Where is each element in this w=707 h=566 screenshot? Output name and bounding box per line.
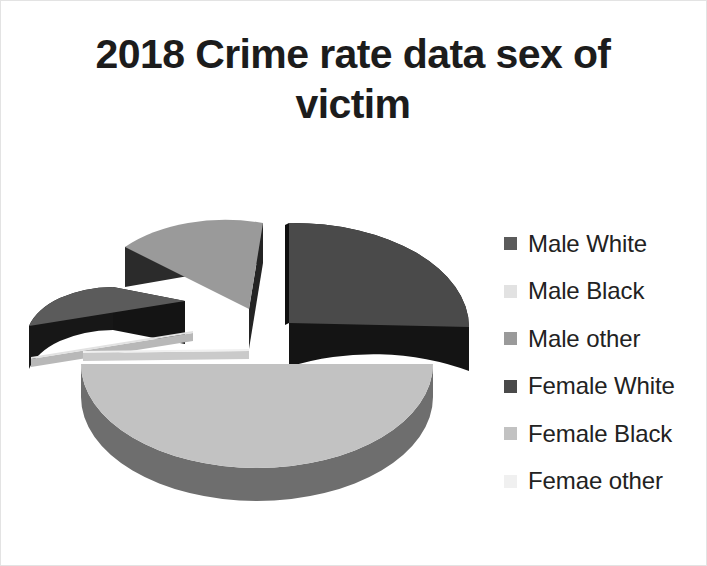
legend-swatch-icon (504, 237, 517, 250)
page-title: 2018 Crime rate data sex of victim (53, 29, 653, 129)
pie-slice-female-black[interactable] (81, 364, 433, 501)
legend-swatch-icon (504, 427, 517, 440)
legend-label: Female White (528, 372, 675, 400)
legend-swatch-icon (504, 332, 517, 345)
chart-legend: Male White Male Black Male other Female … (504, 220, 700, 505)
pie-chart-plot-area (17, 201, 497, 521)
legend-label: Male other (528, 325, 640, 353)
legend-item-femae-other[interactable]: Femae other (504, 458, 700, 506)
legend-label: Male White (528, 230, 647, 258)
legend-swatch-icon (504, 285, 517, 298)
legend-item-male-other[interactable]: Male other (504, 315, 700, 363)
legend-label: Female Black (528, 420, 672, 448)
legend-item-female-black[interactable]: Female Black (504, 410, 700, 458)
legend-item-female-white[interactable]: Female White (504, 363, 700, 411)
pie-slice-femae-other[interactable] (83, 349, 249, 361)
legend-item-male-white[interactable]: Male White (504, 220, 700, 268)
legend-item-male-black[interactable]: Male Black (504, 268, 700, 316)
pie-chart-graphic (17, 201, 497, 521)
pie-slice-female-white-edge (285, 223, 289, 325)
slide-canvas: 2018 Crime rate data sex of victim (0, 0, 707, 566)
legend-swatch-icon (504, 380, 517, 393)
legend-swatch-icon (504, 475, 517, 488)
legend-label: Femae other (528, 467, 663, 495)
pie-slice-female-white[interactable] (285, 223, 469, 371)
legend-label: Male Black (528, 277, 644, 305)
pie-slice-female-white-top (289, 223, 469, 327)
